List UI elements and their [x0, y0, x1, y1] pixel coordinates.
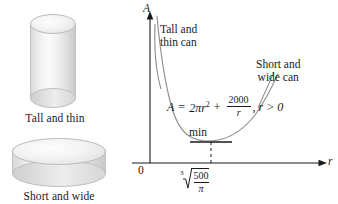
tall-thin-cylinder-top-ellipse — [30, 14, 76, 34]
horizontal-axis-label: r — [328, 155, 332, 167]
optimization-figure: Tall and thin Short and wide — [0, 0, 338, 204]
short-wide-can-annotation-line2: wide can — [256, 71, 300, 84]
tall-thin-can-annotation: Tall and thin can — [160, 23, 197, 48]
radical-sign — [183, 168, 192, 190]
equation-term1: 2πr2 — [189, 100, 210, 116]
vertical-axis-label: A — [143, 2, 150, 14]
min-label: min — [189, 126, 207, 138]
equation-fraction-numerator: 2000 — [227, 95, 251, 105]
equation-equals: = — [178, 100, 185, 115]
short-wide-cylinder-caption: Short and wide — [9, 190, 109, 202]
tall-thin-cylinder-body — [30, 24, 76, 98]
short-wide-cylinder-top-ellipse — [12, 138, 106, 165]
radicand-denominator: π — [198, 183, 203, 194]
tall-thin-cylinder: Tall and thin — [30, 12, 80, 108]
equation-fraction-denominator: r — [235, 108, 243, 118]
radicand-fraction: 500 π — [194, 171, 209, 194]
tall-thin-cylinder-caption: Tall and thin — [10, 112, 100, 124]
radical-glyph — [183, 168, 192, 190]
short-wide-can-annotation: Short and wide can — [256, 58, 300, 83]
tall-thin-can-annotation-line1: Tall and — [160, 23, 197, 36]
short-wide-cylinder: Short and wide — [12, 138, 112, 202]
equation-lhs: A — [167, 100, 174, 115]
short-wide-can-annotation-line1: Short and — [256, 58, 300, 71]
horizontal-axis — [132, 160, 327, 167]
radicand-numerator: 500 — [194, 171, 209, 181]
origin-label: 0 — [138, 164, 144, 176]
equation-fraction: 2000 r — [227, 95, 251, 118]
equation-plus: + — [214, 100, 221, 115]
equation-term1-text: 2πr — [189, 101, 206, 115]
equation-term1-exponent: 2 — [206, 100, 210, 109]
x-tick-cube-root-label: 3 500 π — [180, 168, 209, 194]
tall-thin-cylinder-bottom-ellipse — [30, 88, 76, 108]
tall-thin-can-annotation-line2: thin can — [160, 36, 197, 49]
vertical-axis — [147, 11, 154, 163]
radicand: 500 π — [191, 168, 209, 194]
equation-domain: r > 0 — [259, 100, 284, 115]
area-equation: A = 2πr2 + 2000 r , r > 0 — [167, 96, 283, 119]
equation-comma: , — [253, 100, 256, 115]
